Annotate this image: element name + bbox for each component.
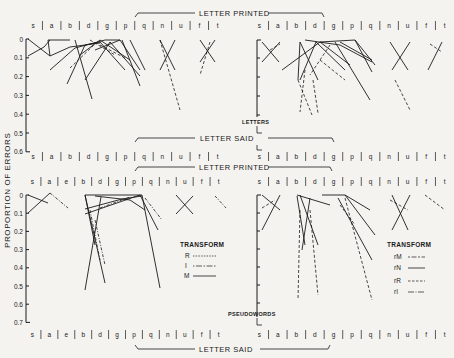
letters-axis-foot: [257, 126, 262, 133]
category-label: n: [166, 331, 170, 338]
category-label: d: [98, 331, 102, 338]
category-label: a: [50, 22, 54, 29]
legend-right: TRANSFORM rM rN rR rI: [387, 241, 431, 295]
figure: PROPORTION OF ERRORS LETTER PRINTED sabd…: [0, 0, 454, 358]
legend-left: TRANSFORM R I M: [180, 241, 224, 279]
category-label: e: [64, 331, 68, 338]
category-label: b: [295, 153, 299, 160]
category-row-pseudo-bottom-right: sabdgpqnuft: [258, 330, 446, 339]
category-row-letters-bottom-right: sabdgpqnuft: [258, 152, 446, 161]
category-label: n: [387, 22, 391, 29]
category-label: p: [132, 331, 136, 339]
letter-said-label-mid: LETTER SAID: [200, 134, 254, 143]
category-label: q: [369, 153, 373, 161]
y-axis-label: PROPORTION OF ERRORS: [3, 133, 12, 248]
legend-right-item-ri: rI: [394, 288, 398, 295]
y-tick-label: 0: [19, 192, 23, 199]
letters-right-dashed: [270, 44, 442, 115]
category-label: n: [387, 331, 391, 338]
category-label: s: [31, 331, 35, 338]
category-label: u: [406, 331, 410, 338]
y-tick-label: 0.3: [14, 92, 23, 99]
letter-printed-label-top: LETTER PRINTED: [199, 9, 270, 18]
category-label: t: [444, 153, 446, 160]
category-label: q: [149, 331, 153, 339]
pseudo-left-dashed: [50, 193, 226, 265]
y-tick-label: 0.6: [14, 301, 23, 308]
category-label: p: [124, 153, 128, 161]
category-label: a: [276, 22, 280, 29]
category-row-letters-top-right: sabdgpqnuft: [258, 21, 446, 30]
category-label: d: [87, 153, 91, 160]
legend-left-title: TRANSFORM: [180, 241, 224, 248]
category-label: q: [369, 331, 373, 339]
category-label: f: [198, 22, 200, 29]
category-label: d: [313, 178, 317, 185]
category-label: u: [406, 153, 410, 160]
category-label: p: [132, 178, 136, 186]
category-row-pseudo-top-right: sabdgpqnuft: [258, 177, 446, 186]
legend-right-item-rr: rR: [394, 277, 401, 284]
category-label: p: [350, 153, 354, 161]
category-label: p: [124, 22, 128, 30]
legend-left-item-r: R: [185, 252, 190, 259]
category-label: q: [142, 22, 146, 30]
panel-label-letters: LETTERS: [242, 119, 269, 125]
letter-printed-label-mid: LETTER PRINTED: [199, 163, 270, 172]
category-label: d: [313, 153, 317, 160]
y-tick-label: 0.2: [14, 228, 23, 235]
category-label: g: [332, 22, 336, 30]
category-label: t: [217, 22, 219, 29]
category-label: n: [166, 178, 170, 185]
category-label: t: [217, 153, 219, 160]
category-label: f: [425, 178, 427, 185]
category-label: f: [425, 153, 427, 160]
category-label: u: [183, 178, 187, 185]
category-label: f: [425, 22, 427, 29]
letter-said-label-bottom: LETTER SAID: [199, 345, 253, 354]
category-label: s: [32, 153, 36, 160]
category-label: u: [179, 22, 183, 29]
category-label: a: [276, 331, 280, 338]
category-row-pseudo-top-left: saebdgpqnuft: [31, 177, 220, 186]
category-label: q: [369, 22, 373, 30]
category-label: u: [179, 153, 183, 160]
legend-right-item-rm: rM: [394, 253, 402, 260]
category-label: s: [258, 153, 262, 160]
category-label: b: [68, 22, 72, 29]
category-label: e: [64, 178, 68, 185]
y-tick-label: 0.2: [14, 73, 23, 80]
category-label: g: [115, 178, 119, 186]
category-label: b: [295, 178, 299, 185]
y-tick-label: 0.4: [14, 111, 23, 118]
category-label: f: [201, 178, 203, 185]
said-axis-foot: [257, 145, 262, 150]
panel-label-pseudowords: PSEUDOWORDS: [228, 311, 276, 317]
category-label: d: [87, 22, 91, 29]
pseudo-axis-foot: [257, 318, 262, 325]
y-tick-label: 0.3: [14, 246, 23, 253]
category-label: u: [406, 178, 410, 185]
category-label: g: [115, 331, 119, 339]
category-label: s: [258, 331, 262, 338]
category-label: n: [161, 22, 165, 29]
letters-left-lines: [28, 39, 215, 99]
category-label: g: [332, 178, 336, 186]
y-tick-label: 0.1: [14, 210, 23, 217]
pseudo-right-lines: [262, 195, 410, 260]
category-label: g: [332, 331, 336, 339]
y-tick-label: 0.5: [14, 130, 23, 137]
category-label: t: [218, 331, 220, 338]
y-tick-label: 0.1: [14, 54, 23, 61]
y-axis-letters-right: [257, 40, 261, 117]
category-label: n: [161, 153, 165, 160]
y-tick-label: 0.6: [14, 148, 23, 155]
category-label: f: [425, 331, 427, 338]
category-label: b: [68, 153, 72, 160]
category-row-letters-top-left: sabdgpqnuft: [32, 21, 219, 30]
category-row-pseudo-bottom-left: saebdgpqnuft: [31, 330, 220, 339]
legend-left-item-m: M: [184, 272, 189, 279]
category-label: d: [98, 178, 102, 185]
category-label: t: [444, 331, 446, 338]
category-label: a: [50, 153, 54, 160]
